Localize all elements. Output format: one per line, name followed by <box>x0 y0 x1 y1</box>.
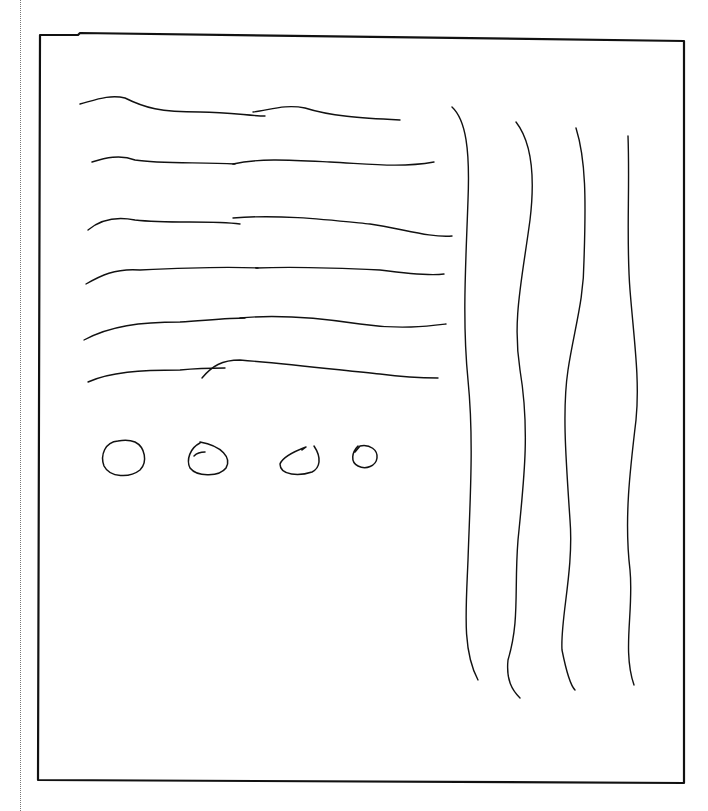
text-lines <box>80 97 452 382</box>
text-line <box>233 160 434 165</box>
sketch-canvas <box>0 0 708 811</box>
text-line <box>88 218 240 230</box>
column-line <box>628 136 638 685</box>
column-line <box>452 107 478 680</box>
text-line <box>80 97 265 116</box>
frame-border <box>38 33 684 783</box>
text-line <box>253 107 400 120</box>
circle-icon <box>280 446 319 474</box>
circle-icon <box>353 446 377 468</box>
circles <box>103 440 377 475</box>
column-line <box>562 128 585 690</box>
text-line <box>92 157 235 164</box>
text-line <box>240 316 446 327</box>
circle-icon <box>188 442 227 475</box>
text-line <box>233 217 452 237</box>
text-line <box>202 360 438 378</box>
column-lines <box>452 107 637 698</box>
text-line <box>84 318 245 340</box>
column-line <box>508 122 533 698</box>
text-line <box>256 267 444 275</box>
text-line <box>86 267 258 284</box>
circle-icon <box>103 440 145 475</box>
